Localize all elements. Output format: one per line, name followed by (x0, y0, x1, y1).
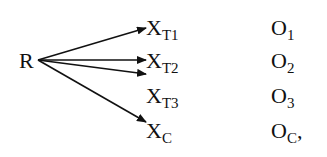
arrow-to-xc (38, 60, 146, 122)
source-label: R (19, 50, 34, 72)
arrow-to-xt2b (38, 60, 146, 74)
treatment-label-t2: XT2 (146, 50, 179, 72)
treatment-label-t3: XT3 (146, 85, 179, 107)
treatment-label-t1: XT1 (146, 17, 179, 39)
observation-label-1: O1 (271, 17, 294, 39)
observation-label-2: O2 (271, 50, 294, 72)
control-label: XC (146, 120, 172, 142)
observation-label-c: OC, (271, 120, 302, 142)
arrow-to-xt1 (38, 28, 146, 60)
observation-label-3: O3 (271, 85, 294, 107)
